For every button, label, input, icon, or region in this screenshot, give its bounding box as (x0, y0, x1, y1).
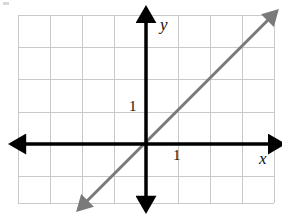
y-axis-tick-label-1: 1 (129, 99, 137, 114)
coordinate-graph-figure: y x 1 1 (0, 0, 282, 221)
x-axis-tick-label-1: 1 (173, 148, 181, 163)
x-axis-label: x (259, 150, 267, 167)
graph-canvas (0, 0, 282, 221)
y-axis-label: y (160, 16, 168, 33)
